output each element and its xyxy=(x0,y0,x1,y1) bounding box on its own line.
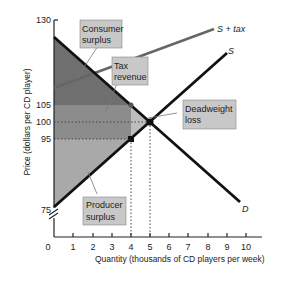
svg-text:7: 7 xyxy=(185,242,190,252)
producer-surplus-label: Producer xyxy=(86,200,123,210)
deadweight-loss-label-2: loss xyxy=(185,115,202,125)
tax-revenue-label: Tax xyxy=(114,61,129,71)
svg-text:5: 5 xyxy=(147,242,152,252)
seller-price-point xyxy=(128,136,134,142)
tax-revenue-label-2: revenue xyxy=(114,72,147,82)
svg-text:100: 100 xyxy=(36,117,51,127)
svg-text:105: 105 xyxy=(36,100,51,110)
svg-text:2: 2 xyxy=(90,242,95,252)
producer-surplus-label-2: surplus xyxy=(86,212,116,222)
consumer-surplus-label-2: surplus xyxy=(82,35,112,45)
supply-plus-tax-label: S + tax xyxy=(217,24,246,34)
svg-text:75: 75 xyxy=(41,205,51,215)
x-axis-title: Quantity (thousands of CD players per we… xyxy=(95,254,265,264)
equilibrium-point xyxy=(147,119,154,126)
supply-label: S xyxy=(228,46,234,56)
svg-text:10: 10 xyxy=(241,242,251,252)
y-axis-title: Price (dollars per CD player) xyxy=(22,68,32,175)
x-tick-labels: 0 1 2 3 4 5 6 7 8 9 10 xyxy=(45,242,251,252)
svg-text:8: 8 xyxy=(205,242,210,252)
svg-text:3: 3 xyxy=(109,242,114,252)
demand-label: D xyxy=(242,204,249,214)
svg-text:95: 95 xyxy=(41,134,51,144)
svg-text:130: 130 xyxy=(36,15,51,25)
tax-incidence-chart: Consumer surplus Tax revenue Deadweight … xyxy=(0,0,291,281)
deadweight-loss-label: Deadweight xyxy=(185,104,233,114)
svg-text:0: 0 xyxy=(45,242,50,252)
svg-text:6: 6 xyxy=(166,242,171,252)
consumer-surplus-label: Consumer xyxy=(82,24,124,34)
svg-text:9: 9 xyxy=(224,242,229,252)
svg-text:1: 1 xyxy=(70,242,75,252)
buyer-price-point xyxy=(129,103,134,108)
y-tick-labels: 130 105 100 95 75 xyxy=(36,15,51,215)
svg-text:4: 4 xyxy=(128,242,133,252)
